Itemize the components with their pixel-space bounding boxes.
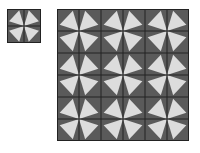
small-pinwheel-tile (7, 9, 41, 43)
pattern-svg (57, 9, 189, 141)
pinwheel-tiling-grid (57, 9, 189, 141)
pattern-svg (7, 9, 41, 43)
